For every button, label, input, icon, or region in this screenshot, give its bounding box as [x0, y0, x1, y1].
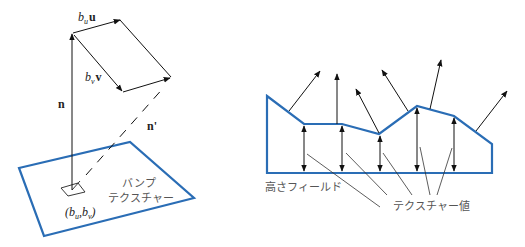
bv-v-label: bvv — [85, 70, 102, 86]
texture-value-arrows — [304, 108, 454, 171]
right-heightfield-diagram: 高さフィールド テクスチャー値 — [265, 60, 507, 213]
height-field-label: 高さフィールド — [265, 180, 342, 194]
n-prime-label: n' — [147, 119, 157, 133]
left-bump-diagram: buu bvv n n' (bu,bv) バンプ テクスチャー — [19, 10, 194, 236]
bump-texture-label-line2: テクスチャー — [108, 192, 174, 205]
bump-texture-label-line1: バンプ — [122, 177, 156, 190]
n-prime-tip — [123, 78, 170, 92]
n-label: n — [58, 97, 65, 111]
bump-texture-plane — [19, 142, 194, 236]
surface-normals — [289, 60, 507, 133]
texture-value-label: テクスチャー値 — [393, 200, 470, 213]
coordinate-label: (bu,bv) — [65, 205, 96, 221]
bu-u-label: buu — [78, 10, 96, 26]
bump-mapping-figure: buu bvv n n' (bu,bv) バンプ テクスチャー — [0, 0, 525, 247]
